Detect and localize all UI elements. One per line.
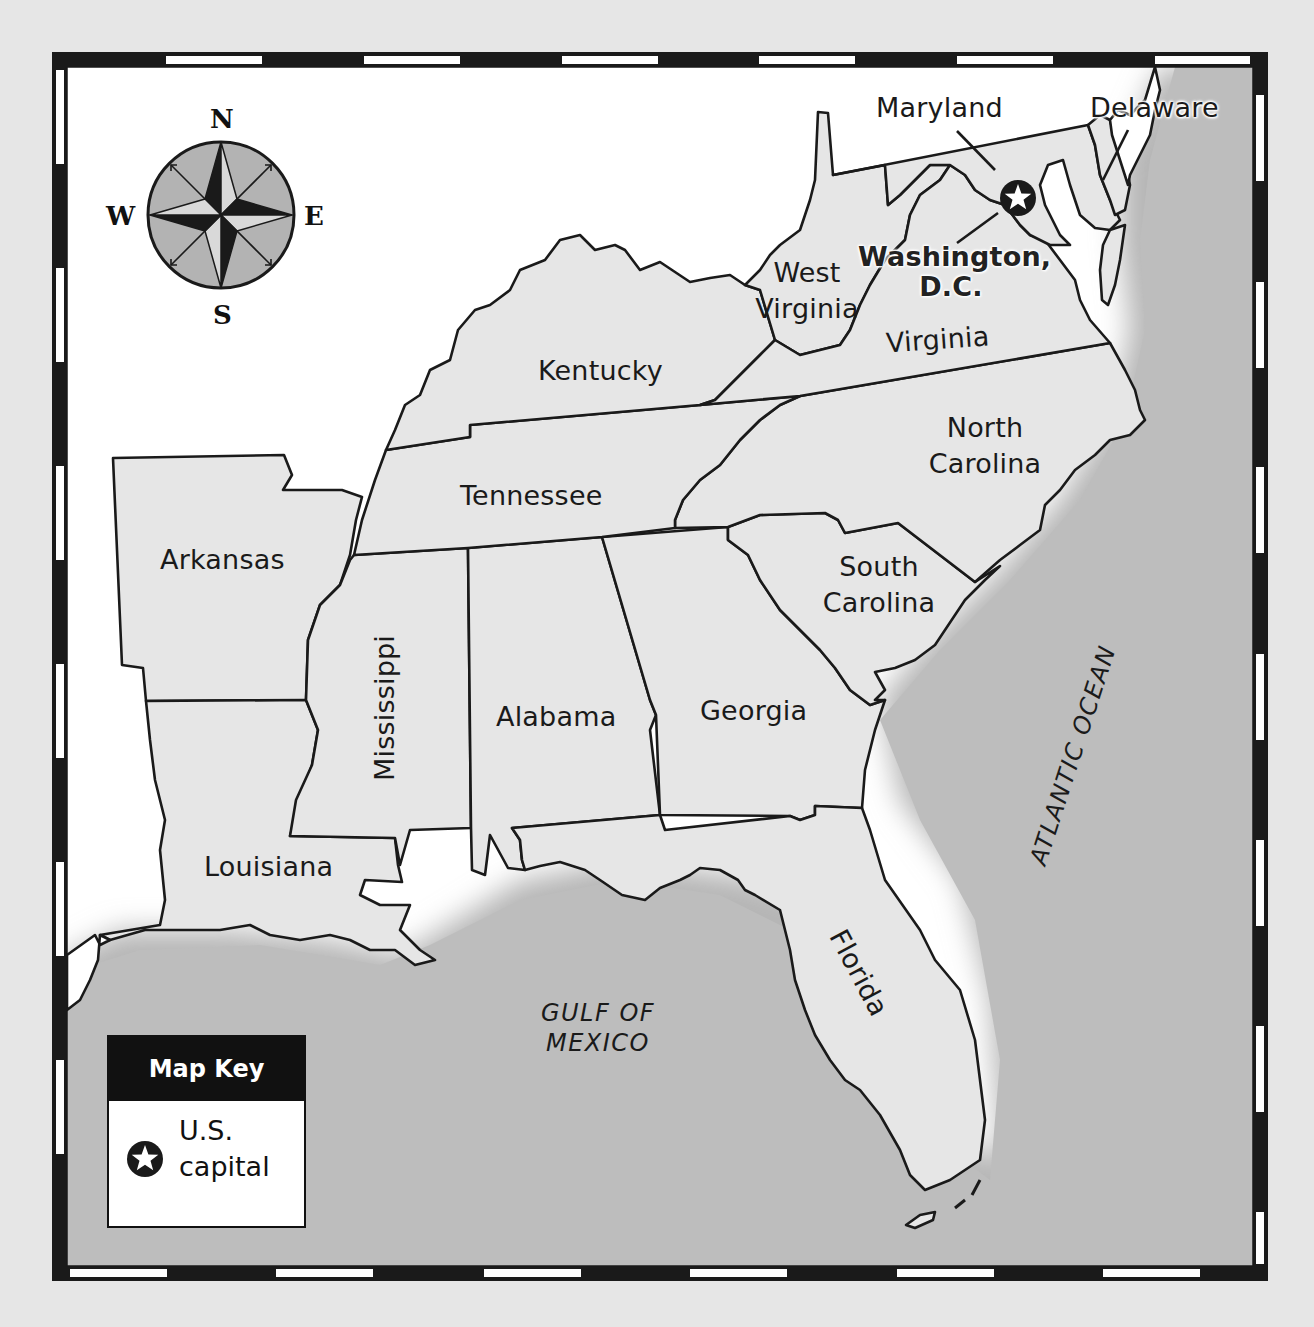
label-gulf-line2: MEXICO — [528, 1028, 668, 1058]
label-south-carolina-line1: South — [806, 549, 952, 585]
label-tennessee: Tennessee — [460, 478, 603, 514]
label-kentucky: Kentucky — [538, 353, 663, 389]
compass-west-label: W — [106, 201, 135, 231]
compass-south-label: S — [213, 300, 232, 330]
label-gulf-line1: GULF OF — [528, 998, 668, 1028]
map-key: Map Key U.S. capital — [107, 1035, 306, 1228]
capital-marker[interactable] — [1000, 180, 1036, 216]
star-in-circle-icon — [125, 1139, 165, 1179]
label-south-carolina-line2: Carolina — [806, 585, 952, 621]
map-key-item-label-line1: U.S. — [179, 1113, 270, 1149]
map-key-title: Map Key — [109, 1037, 304, 1101]
label-gulf-of-mexico: GULF OF MEXICO — [528, 998, 668, 1058]
label-arkansas: Arkansas — [160, 542, 285, 578]
label-louisiana: Louisiana — [204, 849, 333, 885]
compass-rose-icon — [148, 142, 294, 288]
label-washington-dc: Washington, D.C. — [858, 239, 1044, 305]
label-north-carolina-line2: Carolina — [910, 446, 1060, 482]
label-delaware: Delaware — [1090, 90, 1219, 126]
label-west-virginia: West Virginia — [748, 255, 866, 327]
label-mississippi: Mississippi — [367, 633, 403, 783]
map-key-item: U.S. capital — [109, 1101, 304, 1226]
label-north-carolina: North Carolina — [910, 410, 1060, 482]
label-alabama: Alabama — [496, 699, 616, 735]
label-west-virginia-line1: West — [748, 255, 866, 291]
compass-north-label: N — [210, 104, 234, 134]
label-georgia: Georgia — [700, 693, 807, 729]
label-west-virginia-line2: Virginia — [748, 291, 866, 327]
label-south-carolina: South Carolina — [806, 549, 952, 621]
map-key-item-label: U.S. capital — [179, 1113, 270, 1185]
map-key-item-label-line2: capital — [179, 1149, 270, 1185]
label-virginia: Virginia — [885, 318, 991, 361]
compass-east-label: E — [304, 201, 324, 231]
label-north-carolina-line1: North — [910, 410, 1060, 446]
label-maryland: Maryland — [876, 90, 1003, 126]
